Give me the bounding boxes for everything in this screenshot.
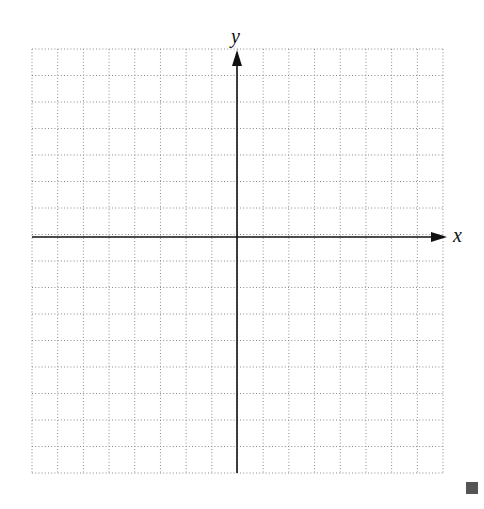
- y-axis-label: y: [229, 25, 240, 48]
- x-axis-arrow-icon: [431, 232, 447, 242]
- y-axis-arrow-icon: [232, 50, 242, 66]
- end-of-figure-square-icon: [466, 482, 478, 494]
- x-axis-label: x: [452, 224, 462, 246]
- coordinate-plane: x y: [0, 0, 484, 509]
